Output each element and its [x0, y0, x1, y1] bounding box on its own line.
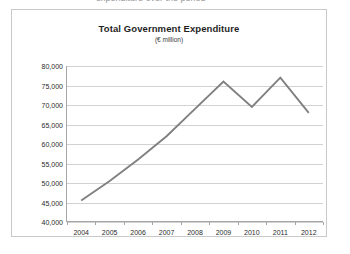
x-axis-tick-label: 2009	[216, 229, 232, 236]
series-line-chart	[67, 66, 323, 222]
y-axis-tick-label: 55,000	[42, 160, 63, 167]
clipped-text-above-chart: expenditure over the period	[0, 0, 350, 8]
y-axis-tick-label: 60,000	[42, 141, 63, 148]
y-axis-tick-label: 40,000	[42, 219, 63, 226]
x-axis-tick-mark	[152, 222, 153, 225]
y-axis-tick-label: 80,000	[42, 63, 63, 70]
clipped-text: expenditure over the period	[96, 0, 206, 3]
plot-area: 40,00045,00050,00055,00060,00065,00070,0…	[67, 66, 323, 222]
y-axis-tick-label: 65,000	[42, 121, 63, 128]
x-axis-tick-mark	[95, 222, 96, 225]
x-axis-tick-label: 2005	[102, 229, 118, 236]
y-axis-tick-label: 70,000	[42, 102, 63, 109]
chart-subtitle: (€ million)	[12, 36, 326, 43]
x-axis-tick-mark	[295, 222, 296, 225]
y-axis-tick-label: 50,000	[42, 180, 63, 187]
x-axis-tick-label: 2007	[159, 229, 175, 236]
x-axis-tick-mark	[124, 222, 125, 225]
x-axis-tick-mark	[67, 222, 68, 225]
x-axis-tick-mark	[266, 222, 267, 225]
y-axis-tick-label: 45,000	[42, 199, 63, 206]
x-axis-tick-label: 2006	[130, 229, 146, 236]
gridline	[67, 222, 323, 223]
y-axis-tick-label: 75,000	[42, 82, 63, 89]
x-axis-tick-mark	[209, 222, 210, 225]
x-axis-tick-mark	[238, 222, 239, 225]
chart-container: Total Government Expenditure (€ million)…	[11, 9, 327, 237]
series-line-total-government-expenditure	[81, 78, 309, 201]
x-axis-tick-label: 2010	[244, 229, 260, 236]
x-axis-tick-label: 2004	[73, 229, 89, 236]
x-axis-tick-label: 2012	[301, 229, 317, 236]
x-axis-tick-mark	[323, 222, 324, 225]
chart-title: Total Government Expenditure	[12, 23, 326, 34]
x-axis-tick-label: 2008	[187, 229, 203, 236]
x-axis-tick-label: 2011	[273, 229, 288, 236]
x-axis-tick-mark	[181, 222, 182, 225]
